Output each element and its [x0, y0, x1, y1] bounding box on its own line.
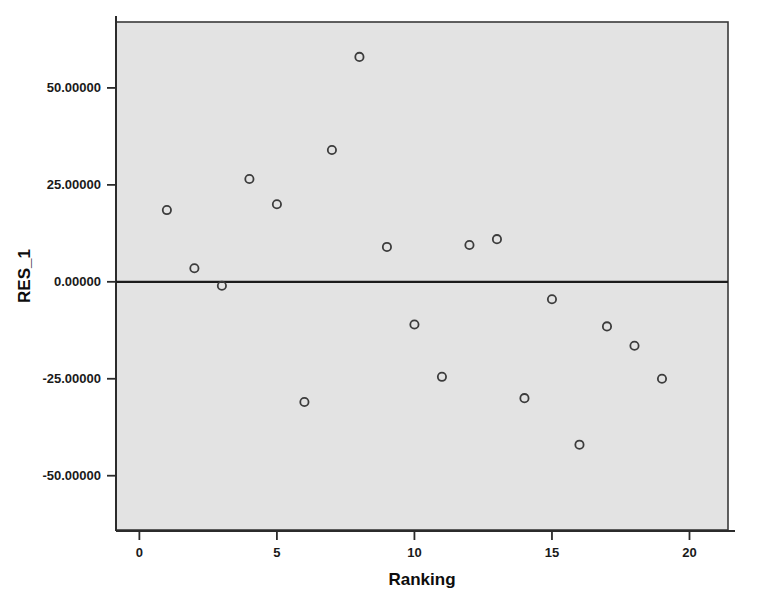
plot-canvas: 50.0000025.000000.00000-25.00000-50.0000… [0, 0, 767, 611]
x-tick-label: 20 [682, 545, 696, 560]
plot-area-background [116, 22, 728, 530]
x-tick-label: 15 [545, 545, 559, 560]
y-tick-label: -50.00000 [42, 468, 101, 483]
x-tick-label: 10 [407, 545, 421, 560]
y-tick-label: 0.00000 [54, 274, 101, 289]
y-axis-title: RES_1 [15, 249, 34, 303]
y-tick-label: 25.00000 [47, 177, 101, 192]
y-tick-label: 50.00000 [47, 80, 101, 95]
x-axis-title: Ranking [388, 570, 455, 589]
y-tick-label: -25.00000 [42, 371, 101, 386]
scatter-plot-figure: 50.0000025.000000.00000-25.00000-50.0000… [0, 0, 767, 611]
x-tick-label: 5 [273, 545, 280, 560]
x-tick-label: 0 [136, 545, 143, 560]
